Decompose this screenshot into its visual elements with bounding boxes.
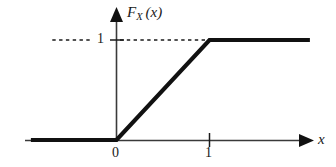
cdf-curve: [31, 40, 310, 140]
x-tick-label-zero: 0: [112, 146, 119, 160]
y-axis-function-subscript: X: [136, 11, 142, 22]
y-axis-function-label: FX(x): [127, 5, 162, 23]
x-axis-arrowhead: [299, 134, 314, 147]
axes-group: [25, 7, 314, 147]
y-tick-label-one: 1: [97, 32, 104, 46]
cdf-curve-group: [31, 40, 310, 140]
x-axis-name-label: x: [318, 132, 325, 147]
y-axis-arrowhead: [110, 7, 123, 22]
cdf-figure: FX(x) 1 0 1 x: [0, 0, 336, 167]
x-tick-label-one: 1: [205, 146, 212, 160]
y-axis-function-argument: (x): [146, 4, 163, 20]
y-axis-function-base: F: [127, 4, 136, 20]
cdf-plot-canvas: [0, 0, 336, 167]
